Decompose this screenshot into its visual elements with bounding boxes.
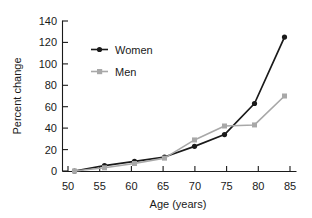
y-tick-label-140: 140	[39, 15, 57, 27]
x-tick-label-70: 70	[189, 180, 201, 192]
data-point-men-60	[132, 161, 137, 166]
legend-label-women: Women	[115, 44, 153, 56]
y-axis-tick-labels: 140 120 100 80 60 40 20 0	[39, 15, 57, 177]
x-axis-title: Age (years)	[150, 198, 207, 210]
data-point-women-70	[192, 144, 197, 149]
series-line-men	[75, 96, 285, 171]
y-tick-label-20: 20	[45, 144, 57, 156]
legend-label-men: Men	[115, 66, 136, 78]
x-tick-label-80: 80	[252, 180, 264, 192]
y-axis-ticks	[63, 21, 69, 171]
y-tick-label-80: 80	[45, 79, 57, 91]
y-axis-title: Percent change	[11, 57, 23, 134]
x-tick-label-55: 55	[94, 180, 106, 192]
y-tick-label-60: 60	[45, 101, 57, 113]
data-point-men-80	[252, 122, 257, 127]
data-point-women-85	[282, 34, 287, 39]
x-tick-label-65: 65	[157, 180, 169, 192]
y-tick-label-100: 100	[39, 58, 57, 70]
data-series-layer	[72, 34, 287, 173]
data-point-women-80	[252, 101, 257, 106]
chart-figure: 140 120 100 80 60 40 20 0 50 55 60 65 70	[0, 0, 312, 218]
y-tick-label-40: 40	[45, 122, 57, 134]
data-point-men-70	[192, 137, 197, 142]
data-point-women-75	[222, 132, 227, 137]
x-axis-tick-labels: 50 55 60 65 70 75 80 85	[62, 180, 296, 192]
data-point-men-55	[102, 165, 107, 170]
y-tick-label-120: 120	[39, 36, 57, 48]
legend-marker-men-square-icon	[97, 69, 102, 74]
data-point-men-50	[72, 169, 77, 174]
data-point-men-65	[162, 156, 167, 161]
chart-legend: Women Men	[91, 44, 153, 78]
chart-canvas: 140 120 100 80 60 40 20 0 50 55 60 65 70	[0, 0, 312, 218]
series-women	[72, 34, 287, 173]
legend-item-men: Men	[91, 66, 136, 78]
legend-marker-women-circle-icon	[97, 47, 102, 52]
y-tick-label-0: 0	[51, 165, 57, 177]
x-tick-label-85: 85	[284, 180, 296, 192]
legend-item-women: Women	[91, 44, 153, 56]
data-point-men-75	[222, 124, 227, 129]
x-tick-label-75: 75	[220, 180, 232, 192]
x-tick-label-60: 60	[125, 180, 137, 192]
data-point-men-85	[282, 94, 287, 99]
x-tick-label-50: 50	[62, 180, 74, 192]
